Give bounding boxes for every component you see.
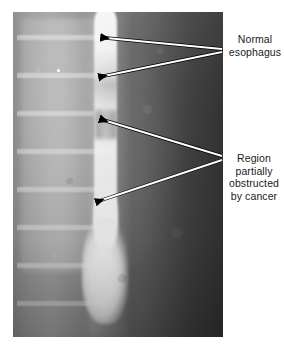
label-obstructed-region: Region partially obstructed by cancer [224,152,284,202]
arrow-obstructed-upper [100,119,222,156]
arrow-group-normal-esophagus [99,38,222,78]
label-normal-esophagus: Normal esophagus [226,33,284,58]
radiograph-figure: Normal esophagus Region partially obstru… [0,0,284,350]
arrow-obstructed-lower [96,160,222,202]
arrow-normal-lower [99,52,222,77]
arrow-group-obstructed-region [96,119,222,202]
arrow-normal-upper [101,38,222,50]
